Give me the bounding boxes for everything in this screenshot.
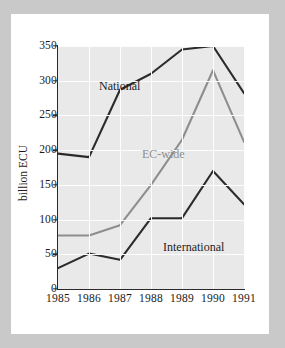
line-chart: 050100150200250300350 billion ECU 198519… <box>11 14 269 334</box>
series-label-international: International <box>163 241 224 253</box>
x-tick-label: 1991 <box>232 293 256 305</box>
x-tick-label: 1989 <box>170 293 194 305</box>
gridline-vertical <box>244 46 245 289</box>
y-tick-label: 50 <box>15 249 57 261</box>
y-tick-label: 350 <box>15 40 57 52</box>
y-tick-mark <box>53 45 57 46</box>
y-tick-mark <box>53 184 57 185</box>
figure-page: 050100150200250300350 billion ECU 198519… <box>0 0 285 348</box>
y-tick-mark <box>53 80 57 81</box>
series-label-national: National <box>99 80 140 92</box>
y-tick-mark <box>53 288 57 289</box>
y-tick-mark <box>53 254 57 255</box>
series-label-ec-wide: EC-wide <box>142 148 185 160</box>
y-axis-line <box>57 45 58 290</box>
x-axis-ticks: 1985198619871988198919901991 <box>58 293 244 313</box>
x-tick-label: 1985 <box>46 293 70 305</box>
x-axis-line <box>57 289 245 290</box>
y-tick-label: 300 <box>15 75 57 87</box>
gridline-vertical <box>151 46 152 289</box>
y-tick-mark <box>53 219 57 220</box>
x-tick-label: 1990 <box>201 293 225 305</box>
x-tick-label: 1987 <box>108 293 132 305</box>
x-tick-label: 1986 <box>77 293 101 305</box>
gridline-vertical <box>89 46 90 289</box>
y-axis-title: billion ECU <box>17 98 29 248</box>
y-tick-mark <box>53 115 57 116</box>
x-tick-label: 1988 <box>139 293 163 305</box>
y-tick-mark <box>53 149 57 150</box>
figure-card: 050100150200250300350 billion ECU 198519… <box>11 14 269 334</box>
